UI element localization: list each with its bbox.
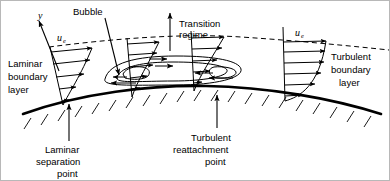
bubble-label: Bubble [73, 6, 103, 17]
laminar-separation-label-line1: Laminar [45, 144, 79, 155]
turbulent-profile [283, 27, 326, 101]
turbulent-bl-label-line2: boundary [331, 64, 371, 75]
ue-subscript-right: e [301, 32, 304, 39]
transition-regime-label-line1: Transition [179, 18, 220, 29]
laminar-separation-label-line3: point [57, 168, 78, 179]
ue-label-left: u e [57, 32, 66, 44]
ue-symbol-right: u [295, 27, 300, 38]
bubble-leader [105, 18, 119, 75]
ue-label-right: u e [295, 27, 304, 39]
boundary-layer-diagram: y u e [0, 0, 390, 181]
wall-hatching-icon [24, 90, 371, 129]
wall-surface [23, 86, 381, 114]
ue-symbol-left: u [57, 32, 62, 43]
turbulent-reattachment-label-line2: reattachment [173, 144, 229, 155]
laminar-separation-label-line2: separation [36, 156, 80, 167]
ue-subscript-left: e [63, 37, 66, 44]
separation-bubble [105, 56, 241, 85]
turbulent-reattachment-label-line1: Turbulent [191, 132, 231, 143]
figure-svg: y u e [1, 1, 390, 181]
laminar-bl-label-line2: boundary [8, 71, 48, 82]
turbulent-reattachment-label-line3: point [205, 156, 226, 167]
y-axis-label: y [37, 10, 43, 21]
laminar-bl-label-line3: layer [8, 84, 29, 95]
transition-regime-label-line2: regime [179, 29, 208, 40]
laminar-bl-label-line1: Laminar [8, 58, 42, 69]
turbulent-bl-label-line1: Turbulent [331, 51, 371, 62]
turbulent-bl-label-line3: layer [339, 77, 360, 88]
